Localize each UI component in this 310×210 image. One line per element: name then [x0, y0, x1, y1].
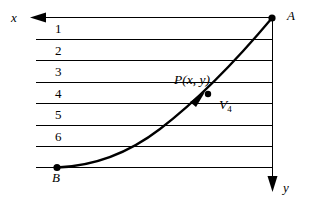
velocity-label: V4 — [219, 98, 232, 112]
strata-label-6: 6 — [55, 130, 62, 143]
velocity-letter: V — [219, 97, 227, 112]
strata-label-5: 5 — [55, 108, 62, 121]
x-axis-label: x — [11, 11, 17, 24]
y-axis-label: y — [283, 181, 289, 194]
point-P-marker — [205, 91, 211, 97]
point-P-label: P(x, y) — [174, 73, 210, 87]
brachistochrone-diagram: x y A B P(x, y) V4 1 2 3 4 5 6 — [0, 0, 310, 210]
diagram-canvas — [0, 0, 310, 210]
strata-label-2: 2 — [55, 44, 62, 57]
x-axis-arrow-icon — [30, 13, 46, 23]
strata-label-1: 1 — [55, 22, 62, 35]
brachistochrone-curve — [57, 18, 272, 168]
strata-label-3: 3 — [55, 65, 62, 78]
point-B-label: B — [52, 171, 60, 184]
point-A-label: A — [287, 9, 295, 22]
strata-label-4: 4 — [55, 87, 62, 100]
velocity-arrow-icon — [190, 92, 205, 107]
y-axis-arrow-icon — [268, 176, 278, 192]
point-A-marker — [268, 14, 275, 21]
velocity-subscript: 4 — [227, 104, 232, 114]
